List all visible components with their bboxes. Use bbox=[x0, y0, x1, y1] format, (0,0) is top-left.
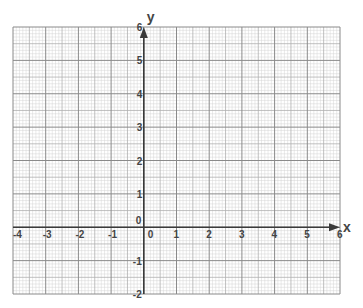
y-tick-label: -2 bbox=[133, 289, 142, 300]
y-tick-label: 4 bbox=[137, 89, 143, 100]
graph-paper: -4-3-2-11234560-2-11234560xy bbox=[0, 0, 363, 308]
x-tick-label: 3 bbox=[239, 229, 245, 240]
grid-lines bbox=[13, 27, 340, 294]
y-tick-label: 3 bbox=[137, 122, 143, 133]
x-tick-label: 2 bbox=[206, 229, 212, 240]
x-tick-label: -1 bbox=[108, 229, 117, 240]
y-tick-label: 6 bbox=[137, 22, 143, 33]
x-tick-label: -3 bbox=[43, 229, 52, 240]
y-tick-label: 5 bbox=[137, 55, 143, 66]
x-origin-label: 0 bbox=[148, 229, 154, 240]
x-tick-label: -2 bbox=[75, 229, 84, 240]
x-tick-label: 5 bbox=[304, 229, 310, 240]
x-tick-label: 4 bbox=[272, 229, 278, 240]
x-axis-name: x bbox=[343, 219, 351, 235]
y-tick-label: -1 bbox=[133, 256, 142, 267]
y-tick-label: 2 bbox=[137, 156, 143, 167]
x-tick-label: -4 bbox=[13, 229, 22, 240]
tick-labels: -4-3-2-11234560-2-11234560xy bbox=[13, 9, 351, 300]
y-origin-label: 0 bbox=[136, 215, 142, 226]
y-tick-label: 1 bbox=[137, 189, 143, 200]
x-tick-label: 1 bbox=[174, 229, 180, 240]
y-axis-name: y bbox=[147, 9, 155, 25]
